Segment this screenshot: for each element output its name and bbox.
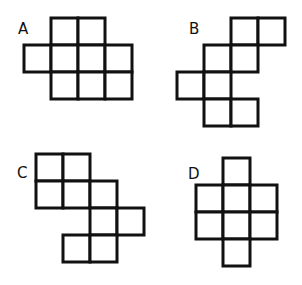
grid-cell: [78, 18, 105, 45]
figure-d-shape: [196, 158, 277, 266]
figure-a-shape: [24, 18, 132, 99]
grid-cell: [177, 72, 204, 99]
grid-cell: [105, 45, 132, 72]
grid-cell: [117, 208, 144, 235]
figure-c-label: C: [17, 166, 27, 181]
grid-cell: [63, 154, 90, 181]
grid-cell: [204, 72, 231, 99]
grid-cell: [105, 72, 132, 99]
figure-b-label: B: [189, 22, 199, 37]
grid-cell: [204, 99, 231, 126]
grid-cell: [250, 185, 277, 212]
grid-cell: [36, 154, 63, 181]
grid-cell: [231, 45, 258, 72]
grid-cell: [78, 45, 105, 72]
grid-cell: [90, 181, 117, 208]
grid-cell: [90, 235, 117, 262]
grid-cell: [196, 212, 223, 239]
grid-cell: [90, 208, 117, 235]
grid-cell: [231, 18, 258, 45]
grid-cell: [231, 99, 258, 126]
figure-d-label: D: [188, 167, 200, 182]
grid-cell: [223, 212, 250, 239]
grid-cell: [24, 45, 51, 72]
grid-cell: [51, 18, 78, 45]
grid-cell: [36, 181, 63, 208]
grid-cell: [258, 18, 285, 45]
grid-cell: [51, 45, 78, 72]
grid-cell: [63, 235, 90, 262]
shapes-canvas: [0, 0, 302, 285]
figure-a-label: A: [18, 22, 28, 37]
figure-c-shape: [36, 154, 144, 262]
grid-cell: [223, 239, 250, 266]
grid-cell: [51, 72, 78, 99]
grid-cell: [63, 181, 90, 208]
grid-cell: [223, 185, 250, 212]
grid-cell: [223, 158, 250, 185]
grid-cell: [204, 45, 231, 72]
grid-cell: [78, 72, 105, 99]
grid-cell: [196, 185, 223, 212]
grid-cell: [250, 212, 277, 239]
